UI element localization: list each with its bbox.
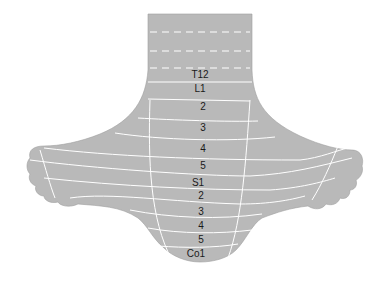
segment-label-l4: 4 bbox=[200, 144, 206, 154]
body-silhouette bbox=[27, 14, 363, 262]
segment-label-s4: 4 bbox=[198, 221, 204, 231]
segment-label-s1: S1 bbox=[192, 178, 204, 188]
segment-label-l3: 3 bbox=[200, 123, 206, 133]
segment-label-s5: 5 bbox=[198, 235, 204, 245]
segment-label-l5: 5 bbox=[200, 161, 206, 171]
segment-label-t12: T12 bbox=[191, 70, 208, 80]
segment-label-l1: L1 bbox=[194, 84, 205, 94]
dermatome-diagram bbox=[0, 0, 386, 288]
segment-label-s3: 3 bbox=[198, 207, 204, 217]
segment-label-co1: Co1 bbox=[187, 249, 205, 259]
segment-label-s2: 2 bbox=[198, 191, 204, 201]
segment-label-l2: 2 bbox=[200, 102, 206, 112]
